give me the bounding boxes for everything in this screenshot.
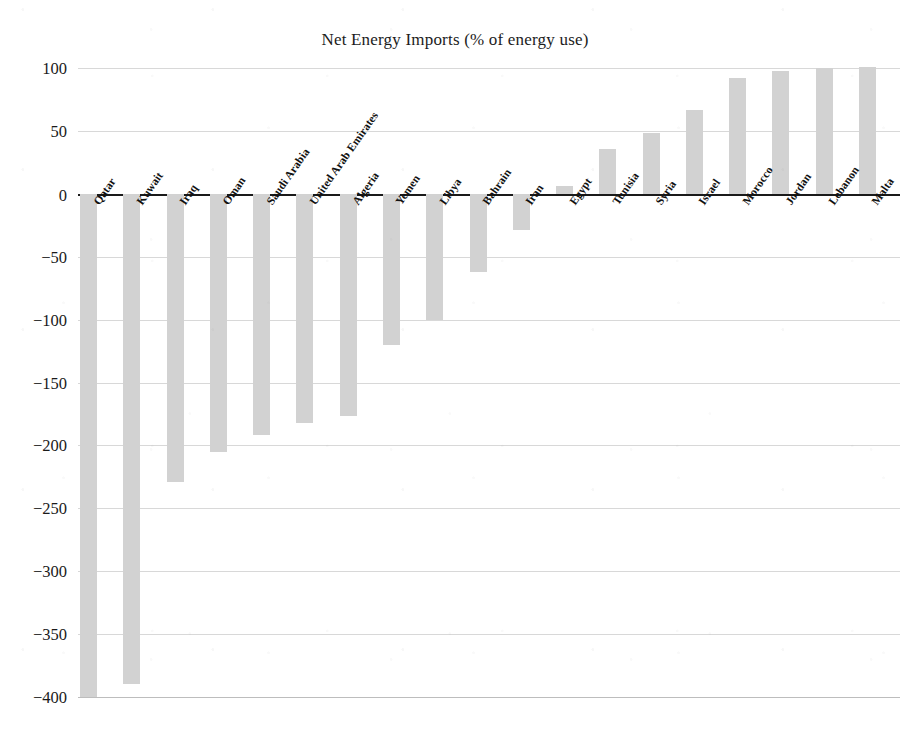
gridline--100: −100 (78, 320, 900, 321)
y-axis-tick-label: 50 (51, 121, 68, 141)
gridline--150: −150 (78, 383, 900, 384)
gridline--250: −250 (78, 508, 900, 509)
y-axis-tick-label: −400 (33, 688, 67, 708)
bar (296, 194, 313, 423)
y-axis-tick-label: −150 (33, 373, 67, 393)
y-axis-tick-label: −300 (33, 562, 67, 582)
category-label: Algeria (350, 169, 381, 206)
y-axis-tick-label: −250 (33, 499, 67, 519)
gridline--300: −300 (78, 571, 900, 572)
category-label: Qatar (91, 175, 118, 206)
gridline-100: 100 (78, 68, 900, 69)
gridline--400: −400 (78, 697, 900, 698)
bar (80, 194, 97, 697)
bar (729, 78, 746, 194)
gridline--50: −50 (78, 257, 900, 258)
y-axis-tick-label: 100 (42, 59, 67, 79)
category-label: Libya (437, 176, 464, 207)
category-label: Bahrain (480, 166, 513, 206)
bar (253, 194, 270, 436)
y-axis-tick-label: −100 (33, 310, 67, 330)
bar (340, 194, 357, 417)
y-axis-tick-label: −350 (33, 625, 67, 645)
category-label: Yemen (393, 172, 422, 207)
bar (859, 67, 876, 194)
bar (772, 71, 789, 194)
bar (816, 68, 833, 194)
bar (686, 110, 703, 194)
chart-title: Net Energy Imports (% of energy use) (0, 30, 910, 50)
gridline--350: −350 (78, 634, 900, 635)
y-axis-tick-label: −200 (33, 436, 67, 456)
category-label: Kuwait (134, 169, 165, 206)
bar (470, 194, 487, 272)
bar (383, 194, 400, 345)
y-axis-tick-label: 0 (59, 185, 67, 205)
bar (167, 194, 184, 482)
plot-area: 100500−50−100−150−200−250−300−350−400 Qa… (78, 68, 900, 697)
y-axis-tick-label: −50 (41, 247, 67, 267)
bar (426, 194, 443, 320)
gridline--200: −200 (78, 445, 900, 446)
bar (599, 149, 616, 194)
bar (123, 194, 140, 685)
bar-chart: Net Energy Imports (% of energy use) 100… (0, 0, 910, 737)
bar (643, 133, 660, 193)
category-label: Oman (220, 174, 248, 206)
bar (210, 194, 227, 452)
